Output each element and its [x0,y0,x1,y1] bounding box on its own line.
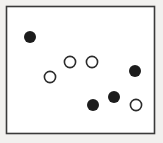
point-diagram-svg [0,0,163,143]
data-point-filled-3 [108,91,120,103]
data-point-open-2 [86,56,97,67]
data-point-filled-4 [87,99,99,111]
data-point-filled-1 [24,31,36,43]
data-point-open-1 [64,56,75,67]
figure-container [0,0,163,143]
data-point-open-4 [130,99,141,110]
data-point-open-3 [44,71,55,82]
data-point-filled-2 [129,65,141,77]
